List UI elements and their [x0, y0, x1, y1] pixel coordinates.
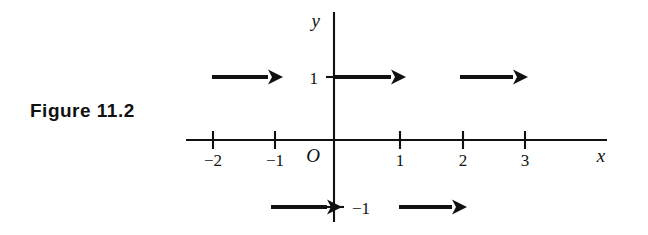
direction-arrow — [212, 70, 283, 85]
y-tick-label-minus1: −1 — [352, 199, 370, 218]
y-axis-label: y — [310, 10, 321, 31]
direction-arrow — [334, 70, 406, 85]
x-tick-label-2: 2 — [459, 151, 468, 170]
origin-label: O — [306, 145, 320, 166]
coordinate-plot: −2 −1 1 2 3 1 −1 O y x — [0, 0, 648, 235]
x-tick-label-minus1: −1 — [266, 151, 284, 170]
x-tick-label-3: 3 — [521, 151, 530, 170]
y-tick-label-1: 1 — [310, 69, 319, 88]
direction-arrow — [460, 70, 528, 85]
x-tick-label-minus2: −2 — [204, 151, 222, 170]
direction-arrow — [399, 200, 467, 215]
x-tick-label-1: 1 — [396, 151, 405, 170]
direction-arrow — [271, 200, 342, 215]
x-axis-label: x — [596, 145, 606, 166]
figure-container: Figure 11.2 −2 −1 1 2 3 1 −1 O y x — [0, 0, 648, 235]
